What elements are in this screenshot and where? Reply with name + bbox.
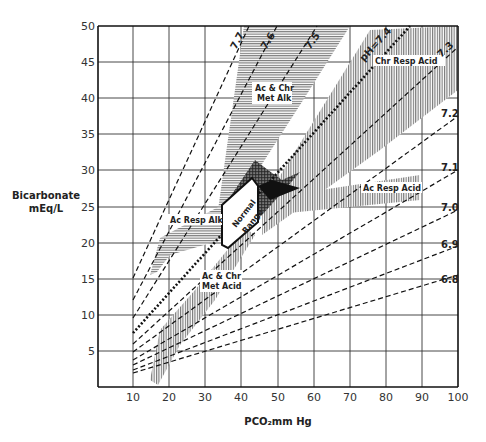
svg-text:10: 10 [126,391,140,404]
met-alk-label-1: Ac & Chr [255,84,294,93]
svg-text:10: 10 [81,309,95,322]
met-alk-label-2: Met Alk [257,94,292,103]
svg-text:80: 80 [379,391,393,404]
svg-text:25: 25 [81,201,95,214]
svg-text:30: 30 [198,391,212,404]
ac-resp-acid-label: Ac Resp Acid [363,184,421,193]
ph-label-6-9: 6.9 [441,239,459,250]
svg-text:100: 100 [448,391,469,404]
svg-text:60: 60 [307,391,321,404]
ph-label-6-8: 6.8 [441,274,459,285]
svg-text:70: 70 [343,391,357,404]
met-acid-label-2: Met Acid [202,282,242,291]
svg-text:45: 45 [81,56,95,69]
svg-text:15: 15 [81,273,95,286]
svg-text:35: 35 [81,128,95,141]
y-axis-title-line1: Bicarbonate [12,190,80,201]
y-axis-title-line2: mEq/L [29,203,64,214]
ac-resp-alk-label: Ac Resp Alk [170,216,224,225]
svg-text:90: 90 [415,391,429,404]
shaded-regions [150,26,458,385]
svg-text:40: 40 [234,391,248,404]
met-acid-label-1: Ac & Chr [202,272,241,281]
ph-label-7-1: 7.1 [441,162,459,173]
x-ticks: 10 20 30 40 50 60 70 80 90 100 [126,391,469,404]
ph-label-7-0: 7.0 [441,202,459,213]
ph-label-7-2: 7.2 [441,108,459,119]
svg-text:5: 5 [88,345,95,358]
acid-base-nomogram: Normal Range Ac & Chr Met Alk Chr Resp A… [0,0,486,442]
chr-resp-acid-label: Chr Resp Acid [375,57,438,66]
svg-text:20: 20 [81,237,95,250]
svg-text:50: 50 [271,391,285,404]
svg-text:40: 40 [81,92,95,105]
y-ticks: 50 45 40 35 30 25 20 15 10 5 [81,20,95,358]
svg-text:20: 20 [162,391,176,404]
svg-text:50: 50 [81,20,95,33]
svg-text:30: 30 [81,164,95,177]
x-axis-title: PCO₂mm Hg [244,416,311,427]
